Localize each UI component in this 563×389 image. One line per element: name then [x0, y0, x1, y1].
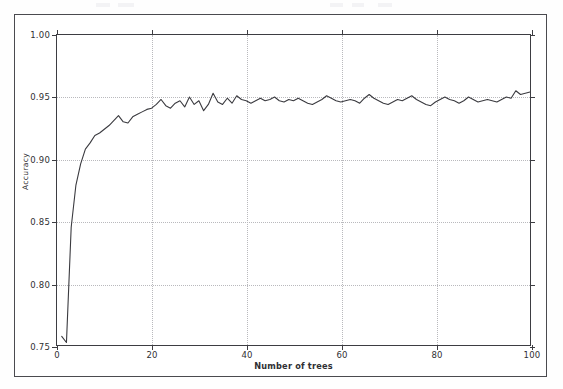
- x-axis-title: Number of trees: [56, 361, 531, 371]
- y-tick-label: 1.00: [30, 30, 50, 40]
- x-tick-label: 80: [431, 350, 442, 360]
- scan-smudge: [352, 3, 364, 7]
- accuracy-line-series: [57, 35, 530, 345]
- matplotlib-figure: Accuracy 0.750.800.850.900.951.00 020406…: [15, 15, 548, 378]
- y-tick-right: [530, 285, 535, 286]
- y-tick-label: 0.80: [30, 280, 50, 290]
- page-canvas: Accuracy 0.750.800.850.900.951.00 020406…: [0, 0, 563, 389]
- y-tick-label: 0.75: [30, 342, 50, 352]
- y-tick-right: [530, 160, 535, 161]
- x-tick-label: 60: [336, 350, 347, 360]
- scan-smudge: [378, 3, 392, 7]
- scan-smudge: [96, 3, 110, 7]
- y-tick-right: [530, 222, 535, 223]
- y-tick-right: [530, 35, 535, 36]
- figure-outer-frame: Accuracy 0.750.800.850.900.951.00 020406…: [14, 14, 547, 377]
- scan-smudge: [330, 3, 343, 7]
- y-tick-right: [530, 97, 535, 98]
- x-tick-label: 100: [524, 350, 541, 360]
- y-tick-label: 0.90: [30, 155, 50, 165]
- y-tick-label: 0.85: [30, 217, 50, 227]
- scan-smudge: [118, 3, 134, 7]
- x-tick-label: 0: [54, 350, 60, 360]
- y-axis-title: Accuracy: [21, 153, 30, 190]
- x-tick-label: 40: [241, 350, 252, 360]
- plot-axes: 0.750.800.850.900.951.00 020406080100: [56, 34, 531, 346]
- x-tick-top: [532, 30, 533, 35]
- series-polyline: [62, 91, 530, 343]
- x-tick-label: 20: [146, 350, 157, 360]
- y-tick-label: 0.95: [30, 92, 50, 102]
